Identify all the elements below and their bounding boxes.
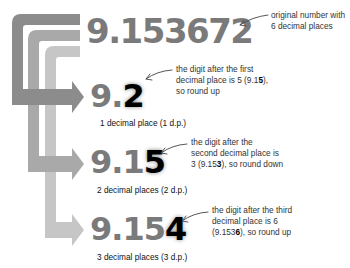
note-3dp: the digit after the third decimal place … [212,205,292,238]
note-text: 3 (9.15 [191,159,217,169]
note-text: decimal place is 5 (9.1 [176,75,258,85]
note-2dp-line3: 3 (9.153), so round down [191,159,283,170]
note-original-line1: original number with [271,10,345,21]
note-original: original number with 6 decimal places [271,10,345,32]
original-number: 9.153672 [86,14,253,48]
arrow-3dp [45,46,84,246]
note-original-line2: 6 decimal places [271,21,345,32]
note-3dp-line3: (9.1536), so round up [212,227,292,238]
note-text: ), so round up [240,227,291,237]
note-2dp: the digit after the second decimal place… [191,137,283,170]
note-text: (9.153 [212,227,235,237]
rounded-3dp-prefix: 9.15 [90,210,165,248]
note-1dp-line2: decimal place is 5 (9.15), [176,75,268,86]
rounded-3dp-digit: 4 [165,210,186,248]
rounded-1dp-prefix: 9. [90,77,122,115]
rounded-2dp-digit: 5 [144,143,165,181]
note-text: ), so round down [221,159,283,169]
note-text: so round up [176,86,220,96]
note-2dp-line1: the digit after the [191,137,283,148]
note-1dp-line3: so round up [176,86,268,97]
caption-2dp: 2 decimal places (2 d.p.) [97,185,187,195]
rounded-1dp-digit: 2 [122,77,143,115]
note-text: second decimal place is [191,148,279,158]
rounded-2dp-prefix: 9.1 [90,143,144,181]
note-3dp-line1: the digit after the third [212,205,292,216]
note-1dp: the digit after the first decimal place … [176,64,268,97]
caption-3dp: 3 decimal places (3 d.p.) [97,252,187,262]
caption-1dp: 1 decimal place (1 d.p.) [100,118,186,128]
note-text: ), [263,75,268,85]
note-1dp-line1: the digit after the first [176,64,268,75]
rounded-2dp: 9.15 [90,146,165,178]
note-text: decimal place is 6 [212,216,278,226]
rounded-3dp: 9.154 [90,213,186,245]
note-3dp-line2: decimal place is 6 [212,216,292,227]
note-2dp-line2: second decimal place is [191,148,283,159]
rounded-1dp: 9.2 [90,80,144,112]
